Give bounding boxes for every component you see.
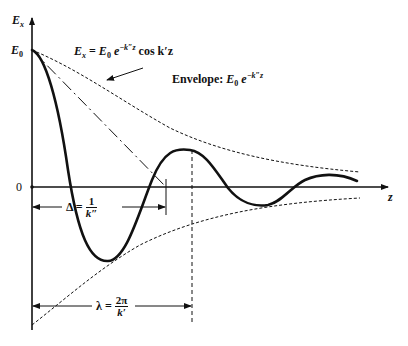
equation-label: Ex = E0 e−k″z cos k′z: [74, 43, 173, 60]
lambda-label: λ = 2πk′: [96, 295, 128, 318]
origin-dot: [30, 185, 34, 189]
zero-tick-text: 0: [16, 180, 22, 194]
damped-wave-diagram: Ex E0 0 z Ex = E0 e−k″z cos k′z Envelope…: [0, 0, 408, 346]
envelope-exp-base: e: [238, 72, 246, 86]
envelope-text: Envelope:: [172, 72, 226, 86]
delta-label: Δ = 1k″: [66, 196, 97, 219]
y-axis-label: Ex: [12, 13, 24, 29]
e0-tick-label: E0: [11, 43, 23, 59]
eq-e0: E: [99, 44, 107, 58]
y-axis-label-sub: x: [20, 20, 24, 29]
envelope-label: Envelope: E0 e−k″z: [172, 71, 263, 88]
delta-fraction: 1k″: [86, 196, 98, 219]
e0-tick-main: E: [11, 43, 19, 57]
e0-tick-sub: 0: [19, 50, 23, 59]
envelope-pointer-arrow: [107, 68, 143, 80]
tangent-line: [32, 50, 166, 187]
lambda-lhs: λ =: [96, 299, 115, 313]
lambda-denominator: k′: [115, 307, 129, 318]
eq-exp-base: e: [111, 44, 119, 58]
upper-envelope: [32, 50, 360, 172]
diagram-canvas: [0, 0, 408, 346]
envelope-exponent: −k″z: [247, 71, 263, 80]
delta-lhs: Δ =: [66, 200, 86, 214]
eq-lhs: E: [74, 44, 82, 58]
delta-denominator: k″: [86, 208, 98, 219]
eq-equals: =: [86, 44, 99, 58]
eq-cos-term: cos k′z: [136, 44, 173, 58]
z-axis-text: z: [388, 190, 393, 204]
y-axis-label-main: E: [12, 13, 20, 27]
z-axis-label: z: [388, 190, 393, 205]
eq-exponent: −k″z: [119, 43, 135, 52]
zero-tick-label: 0: [16, 180, 22, 195]
lambda-fraction: 2πk′: [115, 295, 129, 318]
